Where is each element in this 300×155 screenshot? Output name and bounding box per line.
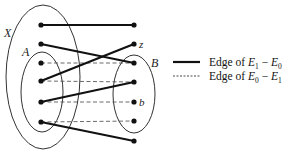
node-l2-dot-icon — [38, 41, 43, 46]
edge-solid — [41, 44, 134, 81]
node-l5-dot-icon — [38, 99, 43, 104]
node-l4-dot-icon — [38, 78, 43, 83]
node-label-z: z — [138, 38, 144, 50]
set-labels: XABzb — [3, 26, 159, 108]
node-r2-dot-icon — [131, 41, 136, 46]
node-r5-dot-icon — [131, 99, 136, 104]
node-l6-dot-icon — [38, 119, 43, 124]
set-x-label: X — [3, 26, 12, 40]
edge-dashed — [41, 121, 134, 122]
legend-dashed-text: Edge of E0 − E1 — [209, 70, 282, 85]
edge-dashed — [41, 81, 134, 82]
legend: Edge of E1 − E0 Edge of E0 − E1 — [173, 56, 282, 85]
node-r3-dot-icon — [131, 60, 136, 65]
bipartite-graph-diagram: XABzb Edge of E1 − E0 Edge of E0 − E1 — [0, 0, 300, 155]
node-r7-dot-icon — [131, 138, 136, 143]
node-r1-dot-icon — [131, 22, 136, 27]
edge-solid — [41, 82, 134, 102]
node-l1-dot-icon — [38, 22, 43, 27]
edge-solid — [41, 122, 134, 141]
set-b-label: B — [151, 56, 159, 70]
node-r6-dot-icon — [131, 118, 136, 123]
node-label-b: b — [139, 96, 145, 108]
node-r4-dot-icon — [131, 79, 136, 84]
node-l3-dot-icon — [38, 60, 43, 65]
set-a-label: A — [21, 45, 30, 59]
legend-solid-text: Edge of E1 − E0 — [209, 56, 282, 71]
